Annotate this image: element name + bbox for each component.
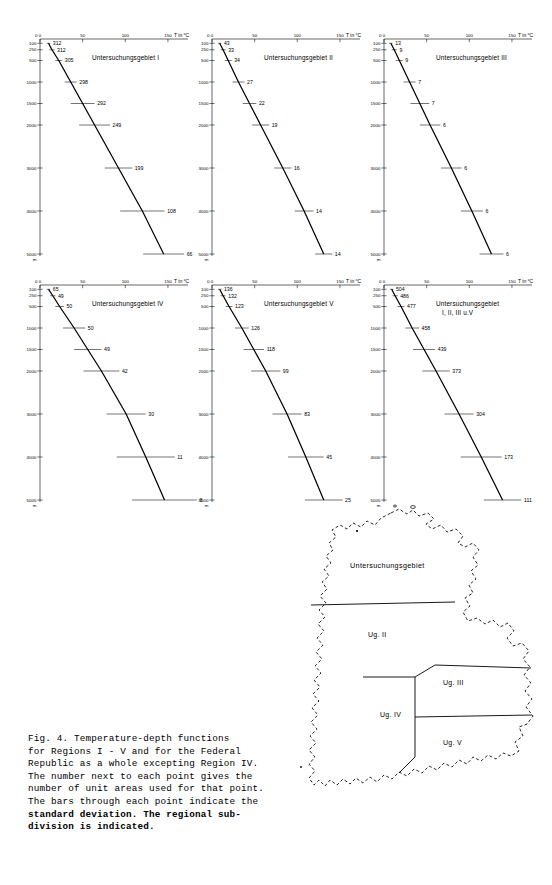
svg-text:5000: 5000 bbox=[371, 252, 381, 257]
svg-text:14: 14 bbox=[335, 251, 341, 257]
svg-text:34: 34 bbox=[234, 57, 240, 63]
svg-text:1500: 1500 bbox=[199, 101, 209, 106]
svg-text:2000: 2000 bbox=[199, 369, 209, 374]
svg-text:500: 500 bbox=[29, 304, 37, 309]
svg-text:500: 500 bbox=[201, 304, 209, 309]
svg-text:m: m bbox=[33, 503, 37, 508]
caption-line: The number next to each point gives the bbox=[28, 771, 278, 784]
caption-line: number of unit areas used for that point… bbox=[28, 783, 278, 796]
svg-text:6: 6 bbox=[443, 122, 446, 128]
figure-page: 050100150T in °C010025050010001500200030… bbox=[0, 0, 552, 885]
svg-text:5000: 5000 bbox=[27, 498, 37, 503]
svg-text:500: 500 bbox=[373, 58, 381, 63]
caption-line: division is indicated. bbox=[28, 821, 278, 834]
svg-text:0: 0 bbox=[379, 33, 382, 38]
chart-region-4: 050100150T in °C010025050010001500200030… bbox=[18, 272, 193, 512]
svg-text:1500: 1500 bbox=[371, 347, 381, 352]
svg-text:T in °C: T in °C bbox=[174, 32, 190, 38]
svg-text:0: 0 bbox=[211, 33, 214, 38]
svg-text:49: 49 bbox=[104, 346, 110, 352]
svg-text:199: 199 bbox=[135, 165, 144, 171]
caption-line: Republic as a whole excepting Region IV. bbox=[28, 758, 278, 771]
chart-region-1: 050100150T in °C010025050010001500200030… bbox=[18, 26, 193, 266]
svg-text:4000: 4000 bbox=[199, 455, 209, 460]
svg-text:0: 0 bbox=[35, 279, 38, 284]
svg-text:500: 500 bbox=[201, 58, 209, 63]
chart-region-3: 050100150T in °C010025050010001500200030… bbox=[362, 26, 537, 266]
svg-text:11: 11 bbox=[177, 454, 182, 460]
svg-text:30: 30 bbox=[148, 411, 154, 417]
svg-text:49: 49 bbox=[58, 293, 64, 299]
svg-text:250: 250 bbox=[29, 47, 37, 52]
svg-text:439: 439 bbox=[438, 346, 447, 352]
svg-text:6: 6 bbox=[486, 208, 489, 214]
svg-text:150: 150 bbox=[336, 33, 344, 38]
svg-text:1000: 1000 bbox=[27, 326, 37, 331]
svg-text:Untersuchungsgebiet: Untersuchungsgebiet bbox=[436, 300, 499, 308]
svg-text:3000: 3000 bbox=[371, 166, 381, 171]
caption-line: for Regions I - V and for the Federal bbox=[28, 746, 278, 759]
svg-text:5000: 5000 bbox=[27, 252, 37, 257]
svg-text:1500: 1500 bbox=[27, 347, 37, 352]
svg-text:T in °C: T in °C bbox=[518, 278, 534, 284]
svg-text:1500: 1500 bbox=[199, 347, 209, 352]
svg-text:486: 486 bbox=[400, 293, 409, 299]
svg-text:1000: 1000 bbox=[371, 326, 381, 331]
svg-text:27: 27 bbox=[247, 79, 253, 85]
map-region-label: Ug. III bbox=[443, 679, 464, 687]
svg-text:Untersuchungsgebiet IV: Untersuchungsgebiet IV bbox=[92, 300, 164, 308]
svg-text:500: 500 bbox=[373, 304, 381, 309]
svg-text:500: 500 bbox=[29, 58, 37, 63]
svg-text:504: 504 bbox=[396, 286, 405, 292]
svg-text:0: 0 bbox=[383, 33, 386, 38]
svg-text:1000: 1000 bbox=[27, 80, 37, 85]
svg-text:123: 123 bbox=[235, 303, 244, 309]
svg-text:250: 250 bbox=[201, 47, 209, 52]
svg-text:132: 132 bbox=[228, 293, 237, 299]
chart-grid: 050100150T in °C010025050010001500200030… bbox=[0, 0, 552, 512]
svg-text:118: 118 bbox=[267, 346, 275, 352]
svg-text:0: 0 bbox=[35, 33, 38, 38]
svg-text:T in °C: T in °C bbox=[346, 278, 362, 284]
svg-text:m: m bbox=[205, 257, 209, 262]
caption-line: standard deviation. The regional sub- bbox=[28, 809, 278, 822]
svg-text:100: 100 bbox=[201, 41, 209, 46]
svg-text:4000: 4000 bbox=[371, 209, 381, 214]
svg-text:50: 50 bbox=[252, 279, 257, 284]
svg-text:Untersuchungsgebiet I: Untersuchungsgebiet I bbox=[92, 54, 159, 62]
svg-text:312: 312 bbox=[53, 40, 62, 46]
svg-text:7: 7 bbox=[418, 79, 421, 85]
svg-text:100: 100 bbox=[29, 287, 37, 292]
svg-text:312: 312 bbox=[57, 47, 66, 53]
svg-text:2000: 2000 bbox=[371, 369, 381, 374]
svg-text:100: 100 bbox=[294, 33, 302, 38]
svg-text:373: 373 bbox=[452, 368, 461, 374]
svg-text:136: 136 bbox=[224, 286, 233, 292]
svg-text:50: 50 bbox=[424, 279, 429, 284]
svg-text:150: 150 bbox=[164, 279, 172, 284]
svg-text:150: 150 bbox=[508, 33, 516, 38]
svg-text:250: 250 bbox=[373, 293, 381, 298]
svg-text:1000: 1000 bbox=[371, 80, 381, 85]
svg-text:I, II, III u.V: I, II, III u.V bbox=[442, 309, 474, 316]
svg-text:1000: 1000 bbox=[199, 80, 209, 85]
svg-text:m: m bbox=[377, 257, 381, 262]
svg-text:0: 0 bbox=[39, 279, 42, 284]
svg-text:43: 43 bbox=[224, 40, 230, 46]
chart-region-5: 050100150T in °C010025050010001500200030… bbox=[190, 272, 365, 512]
svg-text:0: 0 bbox=[207, 279, 210, 284]
svg-text:458: 458 bbox=[422, 325, 431, 331]
svg-text:108: 108 bbox=[167, 208, 176, 214]
svg-text:100: 100 bbox=[294, 279, 302, 284]
svg-text:2000: 2000 bbox=[27, 369, 37, 374]
svg-text:150: 150 bbox=[164, 33, 172, 38]
svg-text:100: 100 bbox=[29, 41, 37, 46]
svg-text:298: 298 bbox=[79, 79, 88, 85]
svg-text:45: 45 bbox=[326, 454, 332, 460]
caption-line: Fig. 4. Temperature-depth functions bbox=[28, 733, 278, 746]
svg-text:83: 83 bbox=[304, 411, 310, 417]
svg-text:292: 292 bbox=[97, 100, 106, 106]
svg-text:T in °C: T in °C bbox=[174, 278, 190, 284]
svg-text:13: 13 bbox=[395, 40, 401, 46]
svg-text:250: 250 bbox=[201, 293, 209, 298]
